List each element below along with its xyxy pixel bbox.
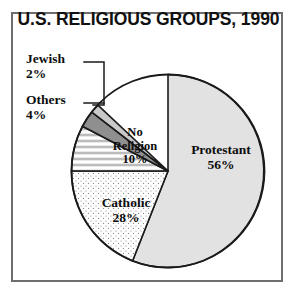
slice-label-catholic-percent: 28% (86, 211, 166, 226)
slice-label-protestant: Protestant 56% (180, 143, 262, 172)
slice-label-others-name: Others (26, 93, 66, 108)
pie-chart-figure: U.S. RELIGIOUS GROUPS, 1990 (0, 0, 297, 294)
slice-label-protestant-percent: 56% (180, 158, 262, 173)
slice-label-jewish-name: Jewish (26, 52, 65, 67)
slice-label-catholic-name: Catholic (86, 196, 166, 211)
slice-label-no-religion: No Religion 10% (104, 126, 166, 167)
leader-lines (84, 62, 104, 105)
slice-label-jewish: Jewish 2% (26, 52, 65, 81)
leader-line-jewish (84, 62, 104, 105)
slice-label-others-percent: 4% (26, 108, 66, 123)
slice-label-others: Others 4% (26, 93, 66, 122)
slice-label-no-religion-percent: 10% (104, 153, 166, 167)
slice-label-jewish-percent: 2% (26, 67, 65, 82)
slice-label-no-religion-name-2: Religion (104, 140, 166, 154)
slice-label-no-religion-name-1: No (104, 126, 166, 140)
slice-label-catholic: Catholic 28% (86, 196, 166, 225)
slice-label-protestant-name: Protestant (180, 143, 262, 158)
